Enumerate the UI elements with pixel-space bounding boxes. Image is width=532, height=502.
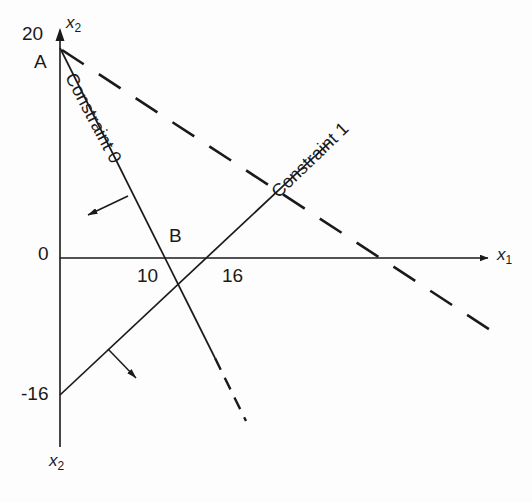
point-label-a: A — [34, 52, 47, 71]
y-axis-label-top-subscript: 2 — [75, 21, 82, 35]
y-axis-label-top-base: x — [66, 13, 75, 32]
x-tick-label-16: 16 — [222, 266, 243, 285]
constraint-1-direction-arrow — [108, 349, 136, 378]
x-tick-label-10: 10 — [137, 266, 158, 285]
y-axis-label-bottom: x2 — [49, 452, 64, 472]
constraint-0-line-dashed — [215, 358, 246, 421]
y-tick-label-negative-16: -16 — [21, 384, 48, 403]
origin-label: 0 — [38, 244, 49, 263]
y-axis-label-bottom-base: x — [49, 451, 58, 470]
x-axis-label-subscript: 1 — [506, 253, 513, 267]
y-axis-label-top: x2 — [66, 14, 81, 34]
point-label-b: B — [169, 226, 182, 245]
y-tick-label-20: 20 — [22, 24, 43, 43]
figure-canvas: 20 A 0 10 16 B -16 x1 x2 x2 Constraint 0… — [0, 0, 532, 502]
y-axis-label-bottom-subscript: 2 — [58, 459, 65, 473]
y-axis-arrowhead — [56, 28, 65, 41]
x-axis-label: x1 — [497, 246, 512, 266]
constraint-0-direction-arrow — [88, 196, 128, 215]
x-axis-label-base: x — [497, 245, 506, 264]
